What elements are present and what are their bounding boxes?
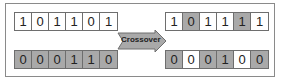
gene-cell: 1 (217, 13, 234, 30)
gene-cell: 0 (100, 51, 117, 68)
gene-cell: 1 (234, 13, 251, 30)
gene-cell: 0 (49, 51, 66, 68)
gene-cell: 1 (100, 13, 117, 30)
child-2-chromosome: 0 0 0 1 0 0 (165, 50, 269, 69)
parent-2-chromosome: 0 0 0 1 1 0 (14, 50, 118, 69)
gene-cell: 1 (217, 51, 234, 68)
gene-cell: 1 (66, 51, 83, 68)
gene-cell: 1 (166, 13, 183, 30)
crossover-label: Crossover (121, 35, 159, 44)
gene-cell: 1 (66, 13, 83, 30)
gene-cell: 0 (15, 51, 32, 68)
gene-cell: 1 (83, 51, 100, 68)
parent-1-chromosome: 1 0 1 1 0 1 (14, 12, 118, 31)
gene-cell: 0 (166, 51, 183, 68)
gene-cell: 0 (200, 51, 217, 68)
gene-cell: 0 (32, 13, 49, 30)
gene-cell: 1 (15, 13, 32, 30)
child-1-chromosome: 1 0 1 1 1 1 (165, 12, 269, 31)
gene-cell: 1 (49, 13, 66, 30)
gene-cell: 0 (234, 51, 251, 68)
gene-cell: 0 (183, 51, 200, 68)
gene-cell: 0 (32, 51, 49, 68)
gene-cell: 0 (83, 13, 100, 30)
gene-cell: 0 (251, 51, 268, 68)
gene-cell: 1 (251, 13, 268, 30)
gene-cell: 1 (200, 13, 217, 30)
gene-cell: 0 (183, 13, 200, 30)
